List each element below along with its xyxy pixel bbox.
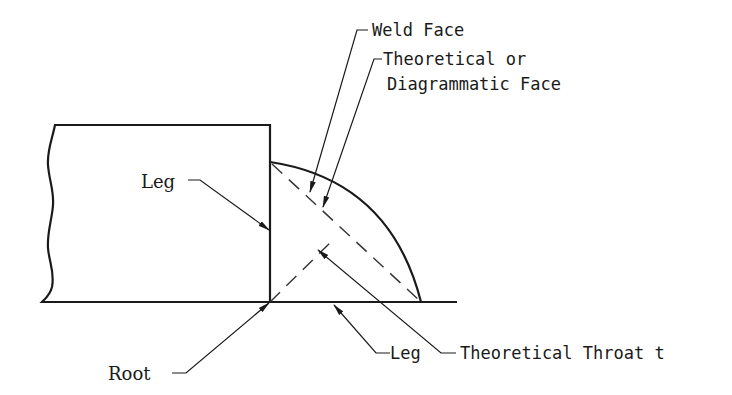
theoretical-throat-label: Theoretical Throat t [460, 343, 665, 363]
root-label: Root [108, 363, 151, 384]
theoretical-face-label-line1: Theoretical or [383, 49, 526, 69]
fillet-weld-diagram: Weld Face Theoretical or Diagrammatic Fa… [0, 0, 732, 395]
root-leader [172, 303, 269, 373]
leg-vertical-label: Leg [141, 171, 175, 192]
weld-face-leader [310, 30, 368, 192]
theoretical-face-label-line2: Diagrammatic Face [387, 74, 561, 94]
weld-face-label: Weld Face [372, 20, 464, 40]
theoretical-face-leader [323, 59, 382, 207]
leg-horizontal-leader [334, 305, 390, 353]
leg-horizontal-label: Leg [390, 343, 421, 363]
leg-vertical-leader [188, 180, 269, 230]
upright-plate [42, 125, 270, 302]
throat-line [270, 239, 334, 302]
theoretical-face-line [272, 164, 420, 301]
